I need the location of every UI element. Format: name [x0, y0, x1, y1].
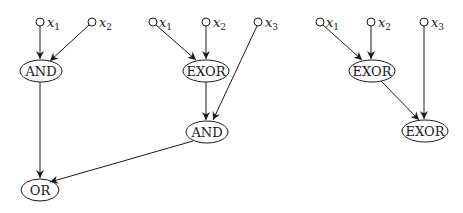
edge-x1-to-exor: [156, 25, 196, 60]
input-x1: x1: [316, 15, 339, 32]
input-label: x2: [378, 15, 391, 32]
input-node-icon: [367, 18, 375, 26]
gate-exor-2: EXOR: [402, 120, 448, 142]
diagram-1: x1 x2 AND OR: [20, 15, 112, 201]
gate-and: AND: [186, 121, 228, 143]
gate-label: AND: [24, 64, 56, 79]
input-x1: x1: [149, 15, 172, 32]
input-label: x1: [326, 15, 339, 32]
input-node-icon: [88, 18, 96, 26]
gate-exor: EXOR: [183, 60, 229, 82]
input-node-icon: [254, 18, 262, 26]
gate-and: AND: [20, 60, 62, 82]
gate-exor: EXOR: [349, 60, 395, 82]
input-label: x1: [47, 15, 60, 32]
input-node-icon: [316, 18, 324, 26]
input-label: x3: [431, 15, 444, 32]
logic-circuit-diagrams: x1 x2 AND OR x1 x2 x: [0, 0, 463, 213]
edge-x1-to-exor: [323, 25, 362, 60]
input-node-icon: [420, 18, 428, 26]
gate-or: OR: [21, 179, 59, 201]
input-label: x2: [213, 15, 226, 32]
input-label: x1: [159, 15, 172, 32]
input-node-icon: [36, 18, 44, 26]
diagram-3: x1 x2 x3 EXOR EXOR: [316, 15, 448, 142]
gate-label: EXOR: [187, 64, 227, 79]
diagram-2: x1 x2 x3 EXOR AND: [50, 15, 278, 182]
input-x3: x3: [254, 15, 278, 32]
input-node-icon: [149, 18, 157, 26]
input-node-icon: [202, 18, 210, 26]
edge-and-to-or: [50, 141, 193, 182]
gate-label: OR: [30, 183, 52, 198]
edge-exor-to-exor2: [381, 81, 419, 120]
gate-label: AND: [190, 125, 222, 140]
input-x2: x2: [88, 15, 112, 32]
input-label: x3: [265, 15, 278, 32]
input-label: x2: [99, 15, 112, 32]
gate-label: EXOR: [406, 124, 446, 139]
gate-label: EXOR: [353, 64, 393, 79]
